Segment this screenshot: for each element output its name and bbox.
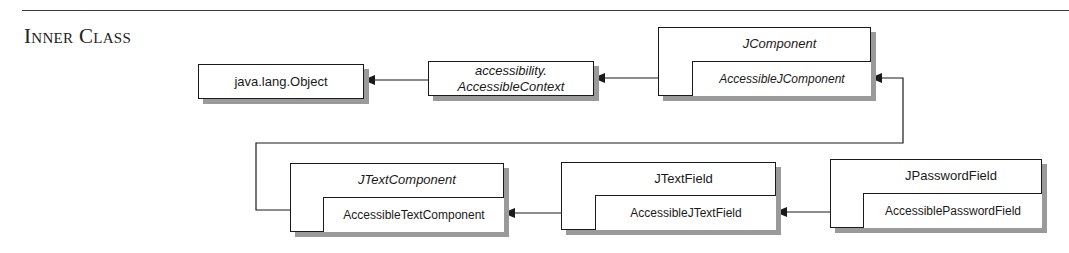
- class-box-jtextcomponent: JTextComponent AccessibleTextComponent: [290, 163, 504, 232]
- class-box-jtextfield: JTextField AccessibleJTextField: [561, 162, 776, 230]
- class-box-accessible-context: accessibility. AccessibleContext: [428, 61, 594, 96]
- inner-class-name: AccessibleTextComponent: [324, 198, 504, 232]
- class-name-accessible-context: accessibility. AccessibleContext: [429, 63, 593, 95]
- inner-class-box-accessible-jcomponent: AccessibleJComponent: [692, 61, 871, 96]
- class-name-line2: AccessibleContext: [429, 79, 593, 95]
- class-name-jtextfield: JTextField: [592, 171, 775, 186]
- inner-class-name: AccessibleJComponent: [693, 62, 871, 96]
- class-name-jpasswordfield: JPasswordField: [861, 168, 1041, 183]
- class-name-jtextcomponent: JTextComponent: [311, 172, 503, 187]
- class-name-line1: accessibility.: [429, 63, 593, 79]
- class-box-jpasswordfield: JPasswordField AccessiblePasswordField: [830, 159, 1042, 228]
- inner-class-name: AccessibleJTextField: [596, 196, 776, 230]
- class-box-object: java.lang.Object: [198, 64, 364, 99]
- class-name-jcomponent: JComponent: [689, 36, 870, 51]
- class-box-jcomponent: JComponent AccessibleJComponent: [658, 27, 871, 96]
- inner-class-box-accessible-text-component: AccessibleTextComponent: [323, 197, 504, 232]
- inner-class-name: AccessiblePasswordField: [864, 194, 1042, 228]
- class-name-object: java.lang.Object: [199, 74, 363, 89]
- inner-class-box-accessible-jtextfield: AccessibleJTextField: [595, 195, 776, 230]
- inner-class-box-accessible-password-field: AccessiblePasswordField: [863, 193, 1042, 228]
